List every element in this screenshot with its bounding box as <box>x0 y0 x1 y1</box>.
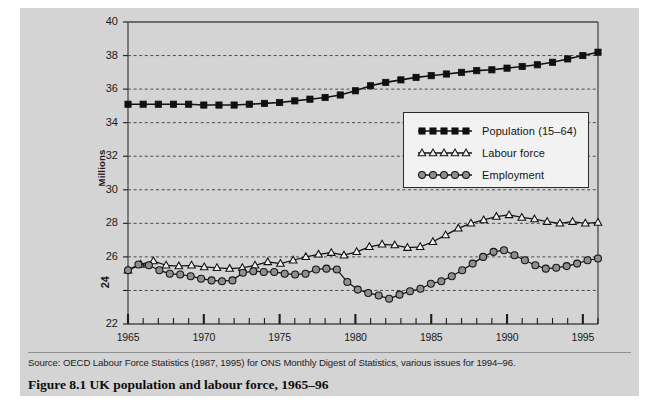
source-divider <box>28 352 631 353</box>
series-employment <box>125 247 602 303</box>
legend-item-employment: Employment <box>416 166 544 184</box>
x-axis-ticks <box>128 314 598 324</box>
legend-marker-filled-circle-icon <box>416 168 474 182</box>
y-axis-ticks <box>123 22 128 324</box>
source-note: Source: OECD Labour Force Statistics (19… <box>28 357 516 368</box>
figure-root: Millions 22242628303234363840 1965197019… <box>0 0 658 413</box>
legend-item-labour-force: Labour force <box>416 144 545 162</box>
legend-item-population-15-64: Population (15–64) <box>416 122 577 140</box>
legend-label: Employment <box>482 169 544 181</box>
series-labour-force <box>124 211 602 273</box>
series-population-15-64 <box>125 49 601 108</box>
chart-plot-area: Millions 22242628303234363840 1965197019… <box>20 8 639 348</box>
chart-legend: Population (15–64)Labour forceEmployment <box>403 112 589 188</box>
legend-marker-open-triangle-icon <box>416 146 474 160</box>
legend-marker-filled-square-icon <box>416 124 474 138</box>
figure-panel: Millions 22242628303234363840 1965197019… <box>20 8 639 396</box>
legend-label: Population (15–64) <box>482 125 577 137</box>
figure-caption: Figure 8.1 UK population and labour forc… <box>28 377 328 393</box>
legend-label: Labour force <box>482 147 545 159</box>
